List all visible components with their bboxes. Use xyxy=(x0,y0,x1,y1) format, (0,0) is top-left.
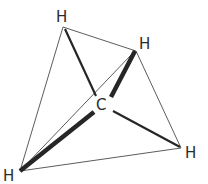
bond-c-h1 xyxy=(65,29,96,96)
atom-label-h-bottom-left: H xyxy=(3,167,14,184)
methane-tetrahedron-diagram: C H H H H xyxy=(0,0,208,184)
atom-label-h-right: H xyxy=(185,144,196,162)
bond-c-h2-wedge xyxy=(111,51,135,97)
atom-label-h-upper-right: H xyxy=(139,35,150,53)
atom-label-h-top: H xyxy=(56,8,67,26)
bond-c-h3 xyxy=(113,111,180,147)
edge-h1-h4 xyxy=(20,27,63,171)
edge-h4-h2 xyxy=(20,55,131,171)
edge-h2-h3 xyxy=(136,51,181,148)
atom-label-carbon: C xyxy=(96,96,106,114)
atom-labels: C H H H H xyxy=(3,8,196,184)
